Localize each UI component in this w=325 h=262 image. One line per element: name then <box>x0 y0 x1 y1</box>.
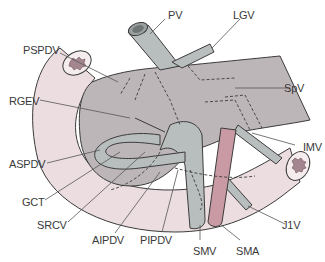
label-imv: IMV <box>303 141 322 153</box>
label-rgev: RGEV <box>9 95 39 107</box>
label-pipdv: PIPDV <box>140 234 172 246</box>
label-srcv: SRCV <box>37 219 67 231</box>
label-aipdv: AIPDV <box>92 234 124 246</box>
label-pspdv: PSPDV <box>23 44 59 56</box>
label-sma: SMA <box>236 245 259 257</box>
label-spv: SpV <box>284 82 304 94</box>
label-aspdv: ASPDV <box>9 158 45 170</box>
label-j1v: J1V <box>282 219 300 231</box>
label-pv: PV <box>168 9 182 21</box>
imv <box>234 125 282 164</box>
label-lgv: LGV <box>233 9 254 21</box>
portal-vein <box>127 20 214 70</box>
label-smv: SMV <box>193 245 216 257</box>
label-gct: GCT <box>22 196 45 208</box>
venous-anatomy-diagram: PV LGV PSPDV SpV RGEV IMV ASPDV GCT J1V … <box>0 0 325 262</box>
